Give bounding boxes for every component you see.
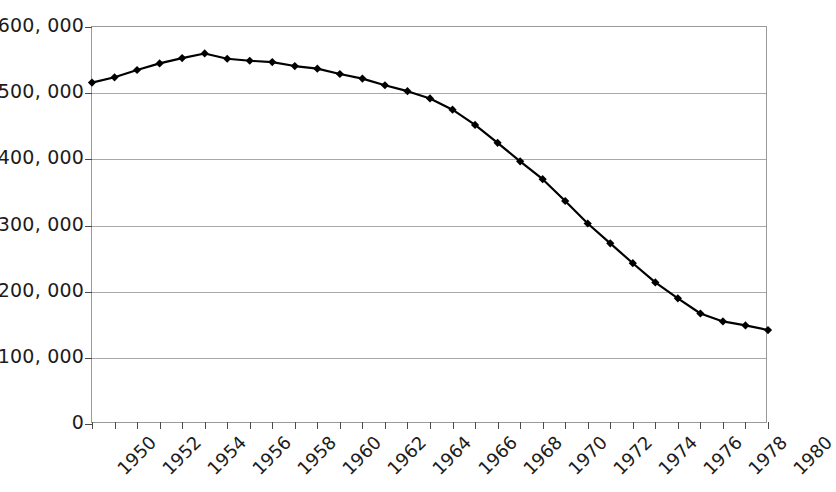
x-axis-tick-label: 1974 bbox=[655, 433, 700, 478]
data-point-marker bbox=[133, 66, 141, 74]
x-axis-tick-label: 1968 bbox=[520, 433, 565, 478]
data-point-marker bbox=[291, 62, 299, 70]
data-point-marker bbox=[178, 54, 186, 62]
data-point-marker bbox=[156, 59, 164, 67]
data-point-marker bbox=[403, 87, 411, 95]
data-point-marker bbox=[741, 321, 749, 329]
x-axis-tick-label: 1970 bbox=[565, 433, 610, 478]
x-axis-tick-label: 1950 bbox=[114, 433, 159, 478]
data-point-marker bbox=[201, 49, 209, 57]
y-axis-tick-label: 400, 000 bbox=[0, 148, 84, 167]
x-axis-tick-label: 1956 bbox=[250, 433, 295, 478]
x-axis-tick-label: 1964 bbox=[430, 433, 475, 478]
y-axis-tick bbox=[85, 93, 92, 94]
y-axis-tick bbox=[85, 226, 92, 227]
y-axis-tick bbox=[85, 424, 92, 425]
x-axis-tick-label: 1972 bbox=[610, 433, 655, 478]
data-point-marker bbox=[313, 65, 321, 73]
data-point-marker bbox=[381, 81, 389, 89]
data-point-marker bbox=[268, 58, 276, 66]
x-axis-tick-label: 1978 bbox=[745, 433, 790, 478]
y-axis-tick bbox=[85, 292, 92, 293]
x-axis-tick-label: 1980 bbox=[790, 433, 835, 478]
y-axis-labels: 0100, 000200, 000300, 000400, 000500, 00… bbox=[0, 0, 84, 492]
x-axis-tick-label: 1952 bbox=[159, 433, 204, 478]
y-axis-tick bbox=[85, 27, 92, 28]
x-axis-tick-label: 1962 bbox=[385, 433, 430, 478]
data-point-marker bbox=[426, 94, 434, 102]
x-axis-tick-label: 1958 bbox=[295, 433, 340, 478]
data-point-marker bbox=[223, 55, 231, 63]
y-axis-tick-label: 0 bbox=[72, 413, 84, 432]
y-axis-tick-label: 300, 000 bbox=[0, 215, 84, 234]
x-axis-tick-label: 1954 bbox=[205, 433, 250, 478]
data-point-marker bbox=[358, 75, 366, 83]
data-point-marker bbox=[110, 73, 118, 81]
figure-caption-cropped bbox=[0, 486, 776, 492]
y-axis-tick-label: 500, 000 bbox=[0, 82, 84, 101]
y-axis-tick-label: 200, 000 bbox=[0, 281, 84, 300]
data-point-marker bbox=[88, 78, 96, 86]
y-axis-tick bbox=[85, 159, 92, 160]
data-series bbox=[92, 27, 768, 424]
y-axis-tick-label: 600, 000 bbox=[0, 16, 84, 35]
y-axis-tick-label: 100, 000 bbox=[0, 347, 84, 366]
plot-area bbox=[91, 26, 767, 423]
data-point-marker bbox=[336, 70, 344, 78]
x-axis-tick-label: 1966 bbox=[475, 433, 520, 478]
y-axis-tick bbox=[85, 358, 92, 359]
data-point-marker bbox=[246, 57, 254, 65]
x-axis-tick-label: 1976 bbox=[700, 433, 745, 478]
data-point-marker bbox=[719, 317, 727, 325]
x-axis-tick bbox=[768, 422, 769, 429]
data-point-marker bbox=[764, 326, 772, 334]
x-axis-tick-label: 1960 bbox=[340, 433, 385, 478]
